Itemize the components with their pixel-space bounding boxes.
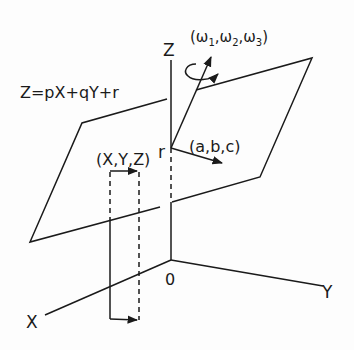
origin-label: 0 bbox=[165, 270, 175, 289]
diagram-canvas: Z=pX+qY+r Z X Y 0 r (X,Y,Z) (a,b,c) (ω1,… bbox=[0, 0, 354, 350]
rotation-vector-arrow bbox=[171, 57, 211, 148]
diagram-svg: Z=pX+qY+r Z X Y 0 r (X,Y,Z) (a,b,c) (ω1,… bbox=[0, 0, 354, 350]
x-axis bbox=[45, 260, 171, 315]
plane-equation-label: Z=pX+qY+r bbox=[20, 83, 119, 102]
point-projection-bracket bbox=[110, 171, 139, 320]
y-axis-label: Y bbox=[321, 282, 333, 302]
translation-vector-label: (a,b,c) bbox=[189, 137, 240, 156]
x-axis-label: X bbox=[26, 312, 38, 332]
point-coords-label: (X,Y,Z) bbox=[96, 150, 150, 169]
point-r-label: r bbox=[158, 142, 165, 162]
rotation-vector-label: (ω1,ω2,ω3) bbox=[190, 28, 268, 48]
z-axis-label: Z bbox=[163, 40, 175, 60]
y-axis bbox=[171, 260, 323, 286]
